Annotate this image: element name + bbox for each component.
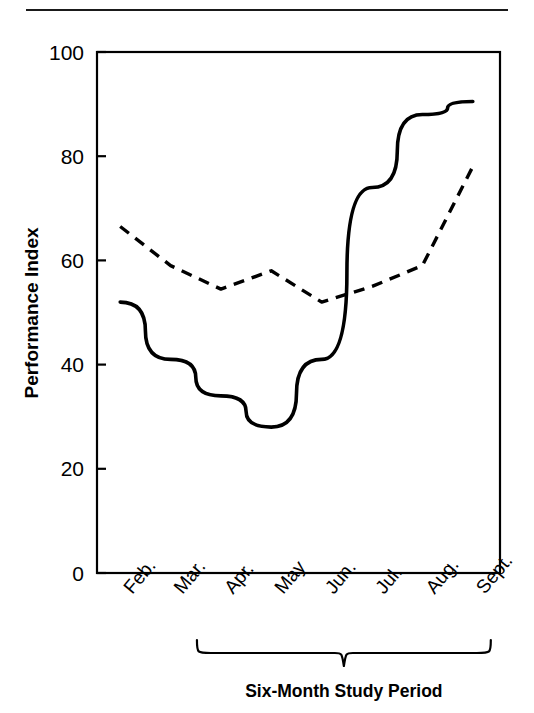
x-axis-title: Six-Month Study Period	[245, 681, 442, 701]
x-category-label-aug: Aug.	[421, 554, 462, 597]
chart-figure: 020406080100 Performance Index Feb.Mar.A…	[0, 0, 534, 713]
line-chart: 020406080100 Performance Index Feb.Mar.A…	[0, 0, 534, 713]
y-axis-ticks	[97, 52, 106, 573]
x-category-label-jun: Jun.	[321, 557, 360, 598]
y-tick-label-20: 20	[61, 457, 84, 480]
y-axis-title: Performance Index	[21, 227, 42, 398]
x-category-label-may: May	[270, 556, 309, 597]
x-category-label-feb: Feb.	[119, 555, 160, 598]
solid-series-line	[120, 102, 473, 428]
y-tick-label-100: 100	[49, 41, 84, 64]
x-category-label-mar: Mar.	[170, 556, 210, 598]
y-axis-tick-labels: 020406080100	[49, 41, 84, 585]
y-tick-label-60: 60	[61, 249, 84, 272]
x-category-label-apr: Apr.	[220, 558, 258, 597]
x-category-label-jul: Jul.	[371, 561, 406, 597]
study-period-brace-icon	[197, 640, 491, 666]
dashed-series-line	[120, 167, 473, 303]
plot-area-border	[97, 52, 500, 573]
y-tick-label-40: 40	[61, 353, 84, 376]
y-tick-label-0: 0	[72, 562, 84, 585]
y-tick-label-80: 80	[61, 145, 84, 168]
